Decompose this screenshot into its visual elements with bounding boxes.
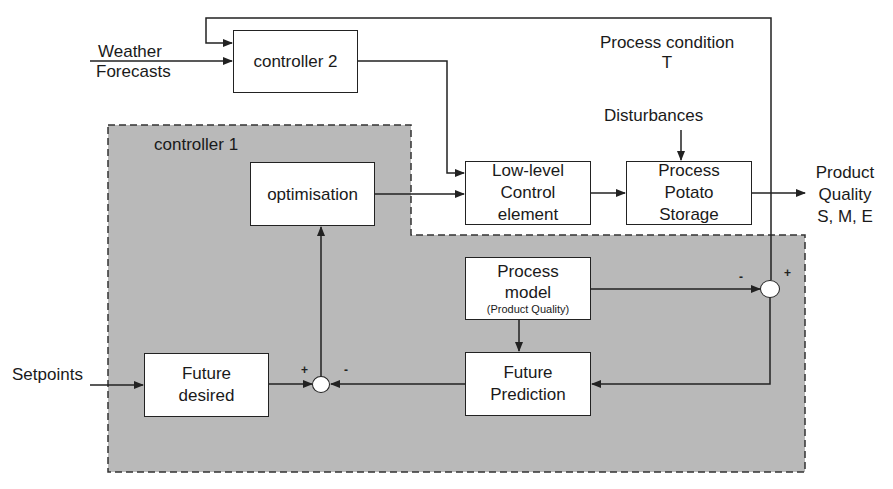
- product-quality-line3: S, M, E: [805, 206, 885, 228]
- controller1-label: controller 1: [154, 135, 238, 155]
- process-potato-storage-block: Process Potato Storage: [626, 161, 752, 225]
- process-line1: Process: [658, 160, 719, 182]
- process-condition-line1: Process condition: [592, 33, 742, 53]
- lower-minus-sign: -: [344, 363, 348, 377]
- setpoints-label: Setpoints: [12, 365, 83, 385]
- lowlevel-line1: Low-level: [492, 160, 564, 182]
- controller2-text: controller 2: [253, 51, 337, 72]
- lowlevel-line3: element: [498, 204, 558, 226]
- right-summing-junction: [760, 280, 780, 298]
- lowlevel-line2: Control: [501, 182, 556, 204]
- product-quality-label: Product Quality S, M, E: [805, 162, 885, 228]
- right-minus-sign: -: [739, 270, 743, 284]
- product-quality-line1: Product: [805, 162, 885, 184]
- future-prediction-line2: Prediction: [490, 384, 566, 406]
- weather-label-line2: Forecasts: [96, 62, 171, 82]
- future-desired-block: Future desired: [144, 353, 269, 417]
- lower-plus-sign: +: [301, 363, 308, 377]
- product-quality-line2: Quality: [805, 184, 885, 206]
- future-desired-line2: desired: [179, 385, 235, 407]
- process-line3: Storage: [659, 204, 719, 226]
- disturbances-label: Disturbances: [604, 106, 703, 126]
- right-plus-sign: +: [784, 266, 791, 280]
- optimisation-text: optimisation: [267, 184, 358, 205]
- process-model-line3: (Product Quality): [487, 303, 570, 316]
- process-line2: Potato: [664, 182, 713, 204]
- controller2-block: controller 2: [233, 30, 358, 93]
- optimisation-block: optimisation: [250, 162, 375, 226]
- future-prediction-block: Future Prediction: [465, 352, 591, 416]
- process-model-line1: Process: [497, 261, 558, 282]
- low-level-control-block: Low-level Control element: [465, 161, 591, 225]
- lower-summing-junction: [312, 376, 330, 393]
- future-prediction-line1: Future: [503, 362, 552, 384]
- weather-label-line1: Weather: [98, 42, 171, 62]
- process-model-block: Process model (Product Quality): [465, 257, 591, 320]
- process-condition-line2: T: [592, 53, 742, 73]
- weather-forecasts-label: Weather Forecasts: [98, 42, 171, 82]
- future-desired-line1: Future: [182, 363, 231, 385]
- process-model-line2: model: [505, 282, 551, 303]
- process-condition-label: Process condition T: [592, 33, 742, 73]
